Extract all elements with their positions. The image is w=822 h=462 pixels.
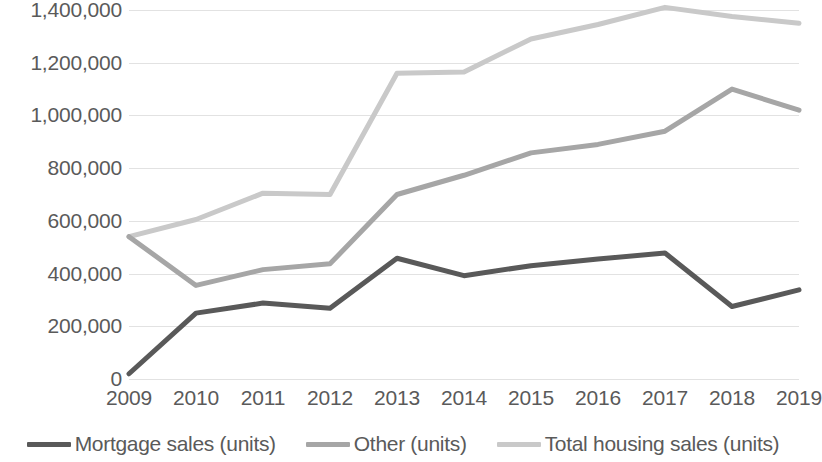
x-tick-label: 2009 (106, 386, 152, 410)
x-tick-label: 2017 (642, 386, 688, 410)
x-tick-label: 2019 (776, 386, 822, 410)
series-line (129, 89, 799, 285)
legend-label: Mortgage sales (units) (75, 433, 276, 455)
y-tick-label: 800,000 (0, 157, 122, 178)
legend-item[interactable]: Other (units) (306, 433, 467, 455)
x-axis: 2009201020112012201320142015201620172018… (129, 386, 799, 416)
x-tick-label: 2012 (307, 386, 353, 410)
x-tick-label: 2016 (575, 386, 621, 410)
y-tick-label: 200,000 (0, 315, 122, 336)
plot-area (129, 10, 799, 379)
legend-swatch-icon (306, 442, 350, 447)
legend-label: Total housing sales (units) (545, 433, 780, 455)
legend-item[interactable]: Mortgage sales (units) (27, 433, 276, 455)
x-tick-label: 2013 (374, 386, 420, 410)
chart-legend: Mortgage sales (units)Other (units)Total… (0, 426, 806, 462)
legend-swatch-icon (27, 442, 71, 447)
x-tick-label: 2010 (173, 386, 219, 410)
y-tick-label: 600,000 (0, 210, 122, 231)
series-layer (129, 10, 799, 379)
y-tick-label: 400,000 (0, 263, 122, 284)
y-tick-label: 1,200,000 (0, 52, 122, 73)
y-tick-label: 1,000,000 (0, 104, 122, 125)
series-line (129, 7, 799, 236)
legend-label: Other (units) (354, 433, 467, 455)
legend-item[interactable]: Total housing sales (units) (497, 433, 780, 455)
x-tick-label: 2018 (709, 386, 755, 410)
series-line (129, 253, 799, 374)
x-tick-label: 2011 (241, 386, 285, 410)
y-axis: 0200,000400,000600,000800,0001,000,0001,… (0, 0, 122, 389)
x-tick-label: 2015 (508, 386, 554, 410)
y-tick-label: 0 (0, 368, 122, 389)
gridline (129, 379, 799, 380)
x-tick-label: 2014 (441, 386, 487, 410)
y-tick-label: 1,400,000 (0, 0, 122, 20)
legend-swatch-icon (497, 442, 541, 447)
